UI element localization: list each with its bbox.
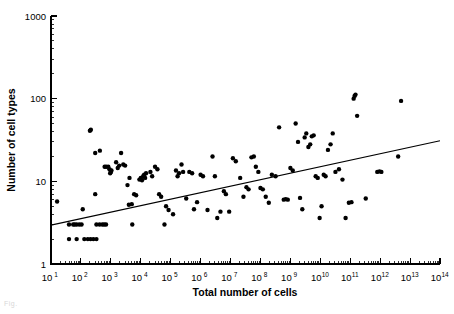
data-point [127, 176, 131, 180]
data-point [355, 114, 359, 118]
data-point [79, 222, 83, 226]
data-point [201, 174, 205, 178]
data-point [130, 202, 134, 206]
data-point [286, 197, 290, 201]
y-tick-label: 10 [35, 176, 46, 187]
data-point [179, 162, 183, 166]
x-tick-exponent: 2 [84, 271, 88, 278]
data-point [399, 99, 403, 103]
data-point [192, 207, 196, 211]
data-point [256, 170, 260, 174]
data-point [181, 170, 185, 174]
data-point [215, 216, 219, 220]
scatter-plot: 1011021031041051061071081091010101110121… [0, 0, 454, 314]
axes [51, 16, 440, 264]
data-point [277, 125, 281, 129]
x-tick-exponent: 7 [234, 271, 238, 278]
data-point [93, 192, 97, 196]
data-point [213, 174, 217, 178]
x-tick-exponent: 4 [144, 271, 148, 278]
data-point [81, 207, 85, 211]
data-point [340, 177, 344, 181]
data-point [396, 154, 400, 158]
x-tick-exponent: 11 [352, 271, 359, 278]
data-point [98, 148, 102, 152]
data-point [184, 196, 188, 200]
data-point [210, 154, 214, 158]
y-tick-label: 1 [41, 259, 46, 270]
trend-line [51, 141, 440, 225]
x-tick-exponent: 1 [54, 271, 58, 278]
data-point [109, 168, 113, 172]
x-tick-exponent: 9 [294, 271, 298, 278]
data-point [323, 174, 327, 178]
data-point [162, 222, 166, 226]
x-tick-label: 10 [42, 272, 53, 283]
x-tick-label: 10 [311, 272, 322, 283]
data-point [246, 187, 250, 191]
data-point [317, 216, 321, 220]
data-point [353, 92, 357, 96]
x-tick-label: 10 [72, 272, 83, 283]
x-tick-label: 10 [221, 272, 232, 283]
data-point [94, 237, 98, 241]
data-point [190, 171, 194, 175]
data-point [224, 192, 228, 196]
data-point [159, 195, 163, 199]
data-point [55, 199, 59, 203]
data-point [166, 208, 170, 212]
data-point [155, 167, 159, 171]
x-tick-exponent: 3 [114, 271, 118, 278]
data-points [55, 92, 403, 241]
data-point [74, 237, 78, 241]
data-point [119, 151, 123, 155]
data-point [218, 209, 222, 213]
x-tick-label: 10 [102, 272, 113, 283]
data-point [298, 196, 302, 200]
data-point [171, 212, 175, 216]
data-point [89, 128, 93, 132]
data-point [311, 133, 315, 137]
data-point [261, 187, 265, 191]
x-tick-exponent: 12 [382, 271, 390, 278]
x-tick-label: 10 [191, 272, 202, 283]
x-tick-exponent: 14 [441, 271, 449, 278]
data-point [326, 148, 330, 152]
data-point [234, 159, 238, 163]
x-tick-label: 10 [281, 272, 292, 283]
data-point [300, 207, 304, 211]
data-point [134, 193, 138, 197]
x-axis-title: Total number of cells [193, 286, 298, 298]
x-tick-label: 10 [131, 272, 142, 283]
data-point [254, 165, 258, 169]
y-tick-label: 100 [30, 93, 46, 104]
data-point [296, 140, 300, 144]
data-point [333, 170, 337, 174]
data-point [241, 195, 245, 199]
data-point [291, 168, 295, 172]
x-tick-exponent: 13 [411, 271, 419, 278]
x-tick-exponent: 10 [322, 271, 330, 278]
x-tick-label: 10 [431, 272, 442, 283]
data-point [308, 142, 312, 146]
data-point [104, 222, 108, 226]
x-tick-label: 10 [341, 272, 352, 283]
data-point [195, 200, 199, 204]
y-axis-title: Number of cell types [5, 88, 17, 191]
data-point [67, 222, 71, 226]
data-point [319, 204, 323, 208]
x-tick-label: 10 [401, 272, 412, 283]
data-point [349, 200, 353, 204]
x-tick-exponent: 5 [174, 271, 178, 278]
data-point [148, 170, 152, 174]
data-point [125, 183, 129, 187]
data-point [67, 237, 71, 241]
data-point [293, 121, 297, 125]
data-point [238, 176, 242, 180]
data-point [227, 209, 231, 213]
data-point [302, 135, 306, 139]
data-point [331, 131, 335, 135]
x-tick-exponent: 8 [264, 271, 268, 278]
data-point [177, 171, 181, 175]
data-point [304, 131, 308, 135]
